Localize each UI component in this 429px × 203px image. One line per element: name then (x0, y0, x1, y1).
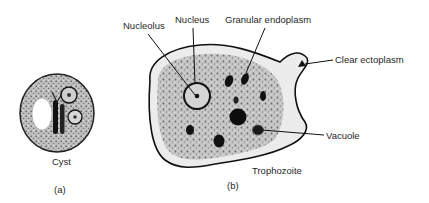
label-trophozoite: Trophozoite (252, 165, 302, 176)
label-nucleolus: Nucleolus (123, 20, 165, 31)
trophozoite-cell (149, 44, 308, 167)
caption-b: (b) (227, 180, 239, 191)
label-vacuole: Vacuole (326, 130, 360, 141)
label-clear-ectoplasm: Clear ectoplasm (335, 54, 404, 65)
diagram-canvas (0, 0, 429, 203)
caption-a: (a) (54, 184, 66, 195)
label-nucleus: Nucleus (175, 14, 209, 25)
label-granular-endoplasm: Granular endoplasm (225, 14, 311, 25)
clear-ectoplasm-leader (305, 60, 333, 64)
label-cyst: Cyst (52, 156, 71, 167)
cyst-cell (20, 74, 94, 152)
